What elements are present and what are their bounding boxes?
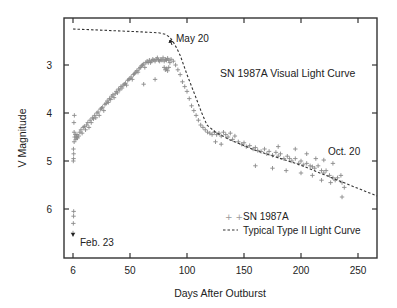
data-point-plus-icon	[267, 149, 271, 153]
type-ii-curve-line	[73, 29, 377, 196]
data-point-plus-icon	[233, 134, 237, 138]
x-axis-ticks: 650100150200250	[70, 18, 367, 276]
data-point-plus-icon	[198, 123, 202, 127]
data-point-plus-icon	[287, 156, 291, 160]
data-point-plus-icon	[71, 147, 75, 151]
data-point-plus-icon	[201, 125, 205, 129]
data-point-plus-icon	[87, 125, 91, 129]
light-curve-chart: 650100150200250 3456 SN 1987A Visual Lig…	[0, 0, 397, 308]
data-point-plus-icon	[310, 173, 314, 177]
data-point-plus-icon	[293, 147, 297, 151]
data-point-plus-icon	[270, 166, 274, 170]
annotation-feb-23: Feb. 23	[80, 237, 114, 248]
data-point-plus-icon	[192, 108, 196, 112]
data-point-plus-icon	[314, 156, 318, 160]
annotation-may-20: May 20	[176, 33, 209, 44]
data-point-plus-icon	[316, 164, 320, 168]
data-point-plus-icon	[339, 173, 343, 177]
data-point-plus-icon	[328, 180, 332, 184]
data-point-plus-icon	[230, 137, 234, 141]
legend: + + SN 1987A Typical Type II Light Curve	[223, 211, 361, 236]
data-point-plus-icon	[265, 152, 269, 156]
data-point-plus-icon	[180, 80, 184, 84]
data-point-plus-icon	[324, 168, 328, 172]
data-point-plus-icon	[270, 153, 274, 157]
data-point-plus-icon	[224, 132, 228, 136]
data-point-plus-icon	[253, 164, 257, 168]
data-point-plus-icon	[293, 156, 297, 160]
data-point-plus-icon	[319, 178, 323, 182]
annotation-oct-20: Oct. 20	[328, 146, 361, 157]
data-point-plus-icon	[221, 130, 225, 134]
x-tick-label: 50	[124, 265, 136, 276]
data-point-plus-icon	[71, 221, 75, 225]
data-point-plus-icon	[178, 72, 182, 76]
data-point-plus-icon	[71, 214, 75, 218]
data-point-plus-icon	[305, 152, 309, 156]
legend-marker-plus-icon: + +	[225, 212, 243, 222]
arrow-may-20-icon	[169, 40, 173, 45]
data-point-plus-icon	[284, 168, 288, 172]
x-tick-label: 100	[179, 265, 196, 276]
data-point-plus-icon	[71, 156, 75, 160]
plot-frame	[64, 18, 377, 258]
data-point-plus-icon	[276, 144, 280, 148]
data-point-plus-icon	[71, 152, 75, 156]
data-point-plus-icon	[319, 168, 323, 172]
data-point-plus-icon	[285, 154, 289, 158]
sn1987a-scatter-series	[71, 56, 347, 236]
data-point-plus-icon	[308, 164, 312, 168]
y-tick-label: 3	[46, 60, 52, 71]
data-point-plus-icon	[331, 161, 335, 165]
data-point-plus-icon	[189, 104, 193, 108]
y-tick-label: 4	[46, 108, 52, 119]
data-point-plus-icon	[185, 89, 189, 93]
data-point-plus-icon	[262, 147, 266, 151]
data-point-plus-icon	[72, 113, 76, 117]
y-tick-label: 6	[46, 204, 52, 215]
arrow-feb-23-icon	[71, 233, 75, 237]
data-point-plus-icon	[342, 185, 346, 189]
y-axis-label: V Magnitude	[16, 108, 28, 167]
data-point-plus-icon	[278, 152, 282, 156]
data-point-plus-icon	[173, 63, 177, 67]
data-point-plus-icon	[299, 171, 303, 175]
chart-title: SN 1987A Visual Light Curve	[220, 67, 355, 79]
data-point-plus-icon	[205, 130, 209, 134]
y-axis-ticks: 3456	[46, 60, 377, 215]
data-point-plus-icon	[299, 159, 303, 163]
data-point-plus-icon	[187, 96, 191, 100]
data-point-plus-icon	[203, 128, 207, 132]
data-point-plus-icon	[153, 77, 157, 81]
legend-label-type-ii: Typical Type II Light Curve	[243, 225, 361, 236]
x-axis-label: Days After Outburst	[174, 287, 266, 299]
data-point-plus-icon	[176, 68, 180, 72]
data-point-plus-icon	[71, 209, 75, 213]
data-point-plus-icon	[340, 195, 344, 199]
data-point-plus-icon	[196, 118, 200, 122]
data-point-plus-icon	[228, 131, 232, 135]
y-tick-label: 5	[46, 156, 52, 167]
data-point-plus-icon	[322, 158, 326, 162]
data-point-plus-icon	[213, 140, 217, 144]
legend-label-sn1987a: SN 1987A	[243, 211, 289, 222]
data-point-plus-icon	[219, 142, 223, 146]
data-point-plus-icon	[194, 113, 198, 117]
data-point-plus-icon	[141, 82, 145, 86]
data-point-plus-icon	[183, 84, 187, 88]
x-tick-label: 250	[350, 265, 367, 276]
x-tick-label: 150	[236, 265, 253, 276]
data-point-plus-icon	[274, 150, 278, 154]
x-tick-label: 6	[70, 265, 76, 276]
data-point-plus-icon	[72, 120, 76, 124]
x-tick-label: 200	[293, 265, 310, 276]
